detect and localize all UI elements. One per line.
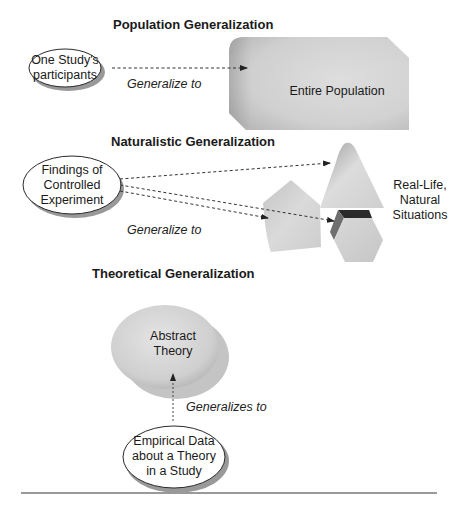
- abstract-theory-label: Abstract Theory: [133, 329, 213, 359]
- population-arrow-label: Generalize to: [127, 77, 201, 91]
- theoretical-heading: Theoretical Generalization: [92, 266, 255, 281]
- naturalistic-arrow-1: [120, 163, 330, 179]
- naturalistic-arrow-label: Generalize to: [127, 223, 201, 237]
- population-heading: Population Generalization: [113, 17, 273, 32]
- naturalistic-arrow-3: [120, 191, 268, 218]
- pentagon-shape: [263, 180, 321, 252]
- findings-label: Findings of Controlled Experiment: [30, 163, 114, 208]
- participants-label: One Study's participants: [29, 53, 101, 83]
- cone-shape: [320, 143, 384, 208]
- real-life-label: Real-Life, Natural Situations: [390, 178, 450, 223]
- empirical-data-label: Empirical Data about a Theory in a Study: [128, 434, 220, 479]
- entire-population-label: Entire Population: [287, 84, 387, 99]
- hexagon-shape: [330, 210, 383, 262]
- theoretical-arrow-label: Generalizes to: [186, 400, 267, 414]
- naturalistic-heading: Naturalistic Generalization: [111, 134, 275, 149]
